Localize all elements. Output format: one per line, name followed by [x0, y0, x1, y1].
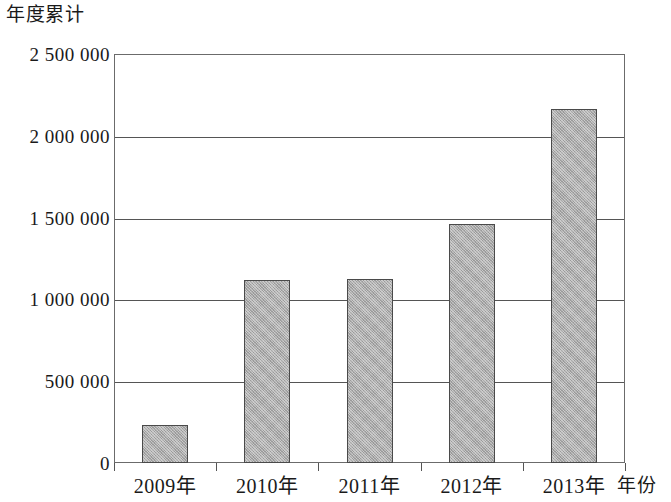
y-tick-label-500000: 500 000 — [2, 372, 110, 391]
y-tick-label-1000000: 1 000 000 — [2, 290, 110, 309]
y-tick-label-1500000: 1 500 000 — [2, 209, 110, 228]
bars-layer — [114, 54, 625, 463]
x-axis-tick-5 — [625, 463, 626, 471]
x-axis-tick-1 — [216, 463, 217, 471]
y-tick-label-2000000: 2 000 000 — [2, 127, 110, 146]
x-tick-label-2010: 2010年 — [216, 474, 318, 498]
x-tick-label-2013: 2013年 — [523, 474, 625, 498]
x-axis-tick-2 — [318, 463, 319, 471]
x-tick-label-2012: 2012年 — [421, 474, 523, 498]
x-tick-label-2009: 2009年 — [114, 474, 216, 498]
x-axis-tick-3 — [421, 463, 422, 471]
y-tick-label-0: 0 — [2, 454, 110, 473]
x-axis-tick-4 — [523, 463, 524, 471]
bar-2011 — [347, 279, 393, 463]
bar-chart-figure: 年度累计 2 500 000 2 000 000 1 500 000 1 000… — [0, 0, 671, 502]
bar-2013 — [551, 109, 597, 463]
bar-2009 — [142, 425, 188, 463]
y-tick-label-2500000: 2 500 000 — [2, 45, 110, 64]
x-tick-label-2011: 2011年 — [318, 474, 420, 498]
bar-2010 — [244, 280, 290, 463]
x-axis-title: 年份 — [617, 474, 656, 498]
y-axis-tick-labels: 2 500 000 2 000 000 1 500 000 1 000 000 … — [0, 0, 110, 502]
bar-2012 — [449, 224, 495, 463]
x-axis-tick-0 — [114, 463, 115, 471]
